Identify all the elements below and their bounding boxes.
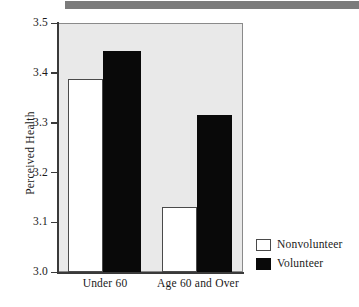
legend-swatch-volunteer-icon — [256, 258, 271, 270]
legend-label-nonvolunteer: Nonvolunteer — [277, 239, 343, 251]
bar-age-60-and-over-nonvolunteer — [162, 207, 197, 272]
legend-swatch-nonvolunteer-icon — [256, 239, 271, 251]
y-tick-mark-3-3 — [51, 122, 58, 124]
y-axis-title: Perceived Health — [24, 73, 36, 233]
bar-under-60-volunteer — [103, 51, 141, 272]
legend-label-volunteer: Volunteer — [277, 258, 323, 270]
legend-item-volunteer: Volunteer — [256, 255, 356, 272]
header-rule-decoration — [65, 1, 359, 9]
y-tick-label-3-5: 3.5 — [33, 17, 48, 29]
legend: Nonvolunteer Volunteer — [256, 236, 356, 274]
y-tick-mark-3-4 — [51, 72, 58, 74]
x-tick-label-age-60-and-over: Age 60 and Over — [152, 277, 244, 291]
bar-age-60-and-over-volunteer — [197, 115, 232, 272]
y-tick-mark-3-5 — [51, 23, 58, 25]
y-tick-mark-3-0 — [51, 272, 58, 274]
bar-under-60-nonvolunteer — [68, 79, 103, 272]
bar-chart-figure: 3.5 3.4 3.3 3.2 3.1 3.0 Perceived Health… — [0, 0, 359, 307]
x-tick-label-under-60: Under 60 — [65, 277, 145, 291]
y-tick-mark-3-1 — [51, 222, 58, 224]
legend-item-nonvolunteer: Nonvolunteer — [256, 236, 356, 253]
y-tick-mark-3-2 — [51, 172, 58, 174]
y-tick-label-3-0: 3.0 — [33, 266, 48, 278]
y-axis-line — [57, 22, 59, 273]
